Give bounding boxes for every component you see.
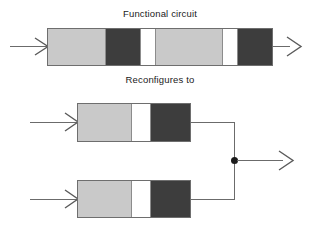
- functional-segment-light-2: [155, 29, 222, 65]
- caption-functional-circuit: Functional circuit: [123, 8, 197, 19]
- functional-segment-white-1: [140, 29, 155, 65]
- functional-segment-white-2: [222, 29, 237, 65]
- branch-top-segment-white: [131, 104, 150, 141]
- branch-bottom-segment-dark: [150, 181, 190, 217]
- circuit-reconfiguration-diagram: Functional circuit Reconfigures to: [0, 0, 313, 230]
- functional-segment-dark-1: [105, 29, 140, 65]
- branch-top-segment-light: [78, 104, 131, 141]
- branch-top-output-wire: [191, 122, 235, 123]
- functional-segment-dark-2: [237, 29, 272, 65]
- branch-top-junction-riser: [234, 122, 235, 161]
- branch-bottom-segment-light: [78, 181, 131, 217]
- caption-reconfigures-to: Reconfigures to: [126, 74, 195, 85]
- branch-bottom-output-wire: [191, 199, 235, 200]
- branch-top-segment-dark: [150, 104, 190, 141]
- functional-circuit-bar: [47, 28, 273, 66]
- functional-segment-light-1: [48, 29, 105, 65]
- branch-bottom-junction-riser: [234, 160, 235, 200]
- branch-top-bar: [77, 103, 191, 142]
- reconfigured-output-wire: [237, 160, 283, 161]
- branch-bottom-bar: [77, 180, 191, 218]
- branch-bottom-segment-white: [131, 181, 150, 217]
